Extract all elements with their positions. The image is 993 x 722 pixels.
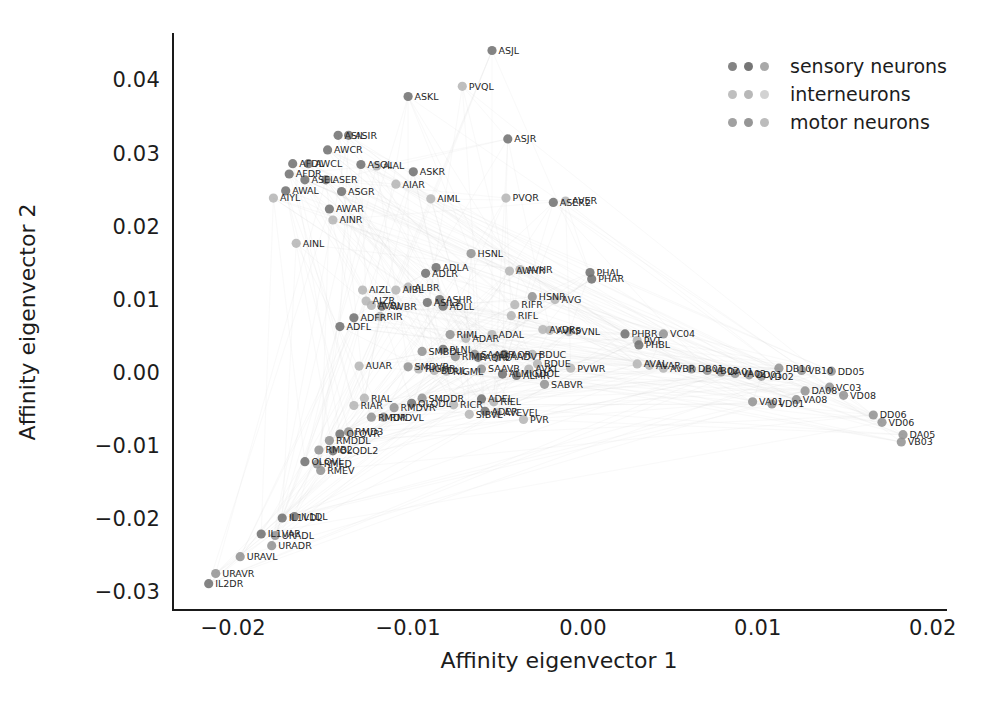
- data-point: [349, 401, 358, 410]
- point-label: RIAR: [360, 400, 383, 411]
- point-label: SIBVL: [476, 409, 504, 420]
- data-point: [391, 286, 400, 295]
- data-point: [285, 169, 294, 178]
- data-point: [236, 552, 245, 561]
- data-point: [355, 362, 364, 371]
- point-label: ASER: [332, 174, 358, 185]
- data-point: [549, 198, 558, 207]
- data-point: [325, 204, 334, 213]
- point-label: RMEV: [327, 465, 355, 476]
- legend-item-2[interactable]: motor neurons: [724, 108, 964, 136]
- point-label: VA08: [803, 394, 827, 405]
- point-label: AVBR: [670, 363, 696, 374]
- legend-dot: [728, 62, 737, 71]
- data-point: [269, 194, 278, 203]
- data-point: [335, 322, 344, 331]
- data-point: [409, 167, 418, 176]
- data-point: [288, 159, 297, 168]
- data-point: [501, 194, 510, 203]
- point-label: VB03: [908, 436, 933, 447]
- point-label: VD08: [850, 390, 876, 401]
- point-label: ALBR: [415, 282, 440, 293]
- data-point: [257, 529, 266, 538]
- point-label: ASIR: [355, 130, 377, 141]
- data-point: [211, 569, 220, 578]
- point-label: AUAR: [366, 360, 393, 371]
- data-point: [423, 298, 432, 307]
- data-point: [510, 300, 519, 309]
- point-label: AWCR: [334, 144, 363, 155]
- point-label: ADFL: [346, 321, 371, 332]
- legend-dot: [760, 118, 769, 127]
- data-point: [620, 329, 629, 338]
- scatter-plot-figure: ASJLPVQLASKLASILASIRASJRAWCRAFDLAWCLASGL…: [0, 0, 993, 722]
- point-label: PVQL: [469, 81, 495, 92]
- data-point: [633, 359, 642, 368]
- legend-label: motor neurons: [784, 111, 930, 133]
- y-tick-label: −0.03: [0, 580, 160, 604]
- legend-dot: [760, 90, 769, 99]
- point-label: AQR: [511, 349, 532, 360]
- legend-dot: [728, 90, 737, 99]
- data-point: [358, 286, 367, 295]
- data-point: [587, 275, 596, 284]
- data-point: [446, 330, 455, 339]
- point-label: ASKR: [420, 166, 446, 177]
- data-point: [204, 579, 213, 588]
- data-point: [467, 249, 476, 258]
- point-label: HSNL: [478, 248, 504, 259]
- data-point: [418, 347, 427, 356]
- data-point: [391, 180, 400, 189]
- point-label: IL1VDL: [289, 512, 323, 523]
- point-label: RMDVL: [390, 412, 424, 423]
- data-point: [334, 131, 343, 140]
- point-label: AINR: [339, 214, 362, 225]
- point-label: PVWR: [577, 363, 606, 374]
- point-label: PVR: [530, 414, 549, 425]
- data-point: [278, 513, 287, 522]
- x-tick-label: 0.00: [559, 616, 607, 640]
- data-point: [367, 413, 376, 422]
- point-label: PVNL: [576, 326, 601, 337]
- y-axis-title: Affinity eigenvector 2: [15, 204, 40, 441]
- data-point: [267, 541, 276, 550]
- data-point: [458, 82, 467, 91]
- data-point: [300, 457, 309, 466]
- point-label: RIFL: [518, 310, 539, 321]
- point-label: AWHR: [516, 265, 546, 276]
- data-point: [337, 187, 346, 196]
- legend-label: interneurons: [784, 83, 911, 105]
- data-point: [869, 410, 878, 419]
- point-label: AIAL: [383, 160, 405, 171]
- data-point: [505, 267, 514, 276]
- point-label: AINL: [303, 238, 325, 249]
- point-label: ASGR: [348, 186, 375, 197]
- point-label: ASJR: [514, 133, 536, 144]
- legend-item-1[interactable]: interneurons: [724, 80, 964, 108]
- y-tick-label: −0.02: [0, 507, 160, 531]
- point-label: AIZL: [369, 284, 391, 295]
- point-label: VD06: [889, 417, 915, 428]
- legend-item-0[interactable]: sensory neurons: [724, 52, 964, 80]
- x-tick-label: 0.02: [909, 616, 957, 640]
- data-point: [314, 445, 323, 454]
- data-point: [328, 215, 337, 224]
- point-label: PHAR: [598, 273, 624, 284]
- point-label: ADLR: [432, 268, 458, 279]
- x-axis-title: Affinity eigenvector 1: [441, 648, 678, 673]
- data-point: [540, 380, 549, 389]
- data-point: [356, 160, 365, 169]
- data-point: [465, 410, 474, 419]
- data-point: [748, 397, 757, 406]
- data-point: [404, 92, 413, 101]
- point-label: ADAR: [472, 333, 499, 344]
- point-label: PHBL: [645, 339, 670, 350]
- inter-marker: [724, 90, 784, 99]
- legend-dot: [744, 62, 753, 71]
- point-label: ADLL: [450, 301, 475, 312]
- legend-dot: [744, 90, 753, 99]
- point-label: ADAL: [499, 329, 525, 340]
- point-label: AVER: [572, 195, 597, 206]
- point-label: OLQDL2: [339, 445, 378, 456]
- data-point: [897, 437, 906, 446]
